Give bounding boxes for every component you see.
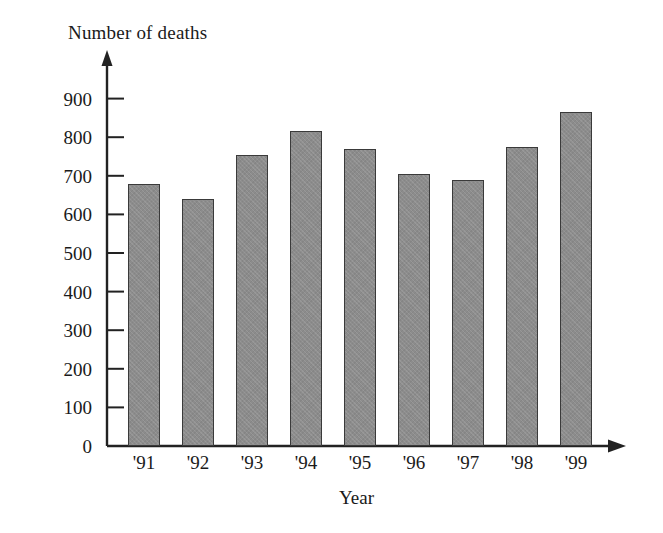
bar-98 <box>506 147 538 446</box>
x-tick-label-92: '92 <box>170 452 226 474</box>
x-tick-label-96: '96 <box>386 452 442 474</box>
bar-91 <box>128 184 160 446</box>
x-axis-title-text: Year <box>289 487 374 508</box>
x-tick-label-94: '94 <box>278 452 334 474</box>
bar-96 <box>398 174 430 446</box>
x-tick-label-95: '95 <box>332 452 388 474</box>
x-tick-label-98: '98 <box>494 452 550 474</box>
bar-97 <box>452 180 484 446</box>
bar-95 <box>344 149 376 446</box>
bar-92 <box>182 199 214 446</box>
bar-chart: Number of deaths 900 800 700 600 500 400… <box>0 0 663 533</box>
bar-93 <box>236 155 268 446</box>
x-tick-label-99: '99 <box>548 452 604 474</box>
bar-94 <box>290 131 322 446</box>
x-tick-label-93: '93 <box>224 452 280 474</box>
bar-99 <box>560 112 592 446</box>
x-tick-label-97: '97 <box>440 452 496 474</box>
x-axis-title: Year <box>0 487 663 509</box>
x-tick-label-91: '91 <box>116 452 172 474</box>
